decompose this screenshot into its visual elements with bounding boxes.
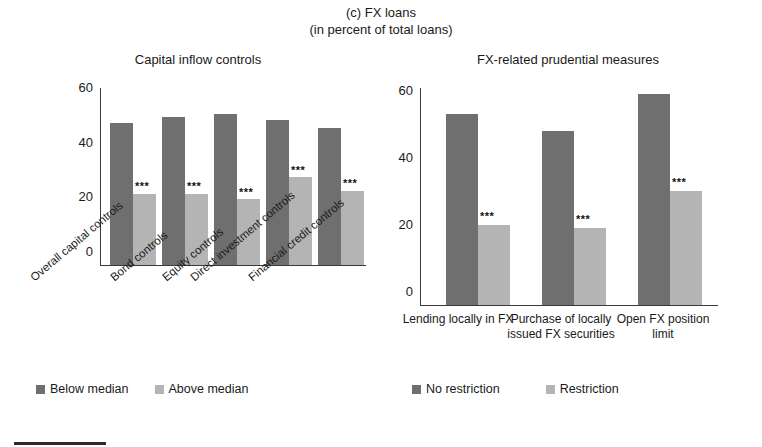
right-y-tick-20: 20 [399,216,413,231]
legend-swatch-below-median-icon [36,385,45,394]
significance-marker-4: *** [291,164,305,176]
bar-restriction-1 [478,225,510,306]
right-category-label-1: Lending locally in FX [402,312,514,327]
legend-label-no-restriction: No restriction [426,382,500,396]
legend-swatch-above-median-icon [155,385,164,394]
bar-below-median-2 [162,117,185,265]
page-edge-artifact [14,442,106,445]
figure-title-line2: (in percent of total loans) [0,21,762,38]
bar-no-restriction-1 [446,114,478,305]
right-significance-marker-1: *** [480,210,494,222]
figure-title: (c) FX loans (in percent of total loans) [0,4,762,38]
right-category-label-3: Open FX position limit [614,312,712,342]
left-y-tick-60: 60 [79,79,93,94]
left-y-axis [100,88,101,266]
bar-no-restriction-2 [542,131,574,305]
significance-marker-1: *** [135,180,149,192]
left-y-tick-40: 40 [79,134,93,149]
bar-below-median-1 [110,123,133,265]
legend-label-above-median: Above median [169,382,249,396]
right-y-axis [420,88,421,306]
bar-restriction-3 [670,191,702,305]
right-y-tick-0: 0 [406,284,413,299]
bar-restriction-2 [574,228,606,305]
right-legend: No restriction Restriction [412,382,619,396]
left-x-axis [100,265,366,266]
right-panel-title: FX-related prudential measures [382,52,754,67]
right-y-tick-40: 40 [399,149,413,164]
right-panel: FX-related prudential measures 0 20 40 6… [382,52,754,442]
legend-item-no-restriction: No restriction [412,382,500,396]
right-significance-marker-3: *** [672,176,686,188]
figure-title-line1: (c) FX loans [0,4,762,21]
legend-label-restriction: Restriction [560,382,619,396]
bar-no-restriction-3 [638,94,670,305]
right-x-axis [420,305,718,306]
legend-swatch-no-restriction-icon [412,385,421,394]
significance-marker-5: *** [343,177,357,189]
left-y-tick-0: 0 [86,244,93,259]
right-plot-area: 0 20 40 60 *** *** *** [420,88,718,306]
left-y-tick-20: 20 [79,189,93,204]
significance-marker-3: *** [239,186,253,198]
figure-panel-c: (c) FX loans (in percent of total loans)… [0,0,762,447]
right-significance-marker-2: *** [576,213,590,225]
right-category-label-2: Purchase of locally issued FX securities [506,312,616,342]
left-panel: Capital inflow controls 0 20 40 60 *** *… [18,52,378,442]
right-y-tick-60: 60 [399,82,413,97]
legend-item-below-median: Below median [36,382,129,396]
legend-item-above-median: Above median [155,382,249,396]
left-panel-title: Capital inflow controls [18,52,378,67]
legend-swatch-restriction-icon [546,385,555,394]
significance-marker-2: *** [187,180,201,192]
legend-label-below-median: Below median [50,382,129,396]
legend-item-restriction: Restriction [546,382,619,396]
left-legend: Below median Above median [36,382,248,396]
